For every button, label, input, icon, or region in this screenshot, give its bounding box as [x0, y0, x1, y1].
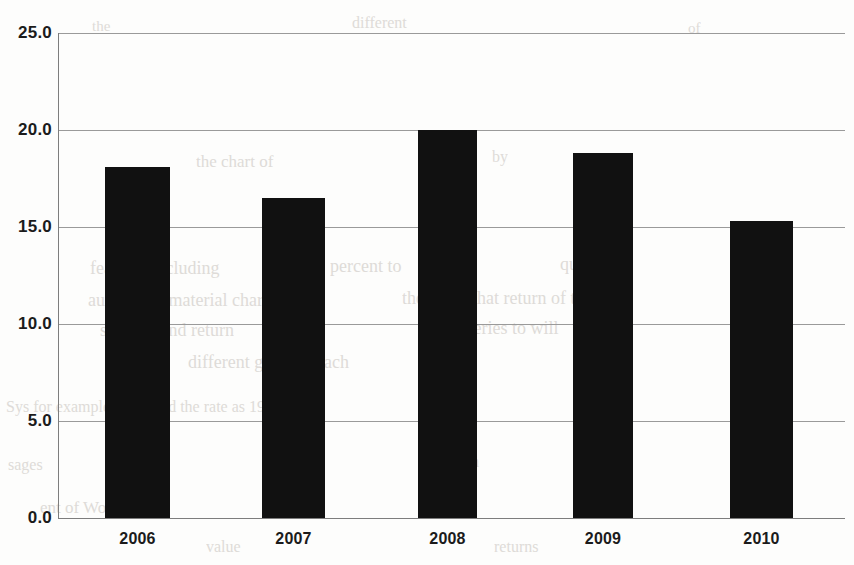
x-tick-label: 2008	[403, 530, 493, 548]
ghost-text: returns	[494, 538, 538, 556]
y-tick-label: 0.0	[0, 508, 52, 528]
y-tick-label: 10.0	[0, 314, 52, 334]
ghost-text: value	[206, 538, 241, 556]
bar-2006	[105, 167, 170, 518]
y-tick-label: 20.0	[0, 120, 52, 140]
gridline-0.0	[58, 518, 845, 519]
bar-2008	[418, 130, 477, 518]
bar-2007	[262, 198, 325, 518]
plot-area	[58, 33, 845, 518]
ghost-text: sages	[8, 456, 43, 474]
y-tick-label: 5.0	[0, 411, 52, 431]
bar-2009	[573, 153, 633, 518]
bar-chart-figure: thedifferentofthe chart ofbyfeatures inc…	[0, 0, 854, 565]
y-tick-label: 15.0	[0, 217, 52, 237]
bar-2010	[730, 221, 793, 518]
x-tick-label: 2007	[249, 530, 339, 548]
gridline-25.0	[58, 33, 845, 34]
x-tick-label: 2009	[558, 530, 648, 548]
ghost-text: different	[352, 14, 407, 32]
x-tick-label: 2010	[717, 530, 807, 548]
y-tick-label: 25.0	[0, 23, 52, 43]
x-tick-label: 2006	[93, 530, 183, 548]
y-axis-line	[58, 33, 59, 519]
